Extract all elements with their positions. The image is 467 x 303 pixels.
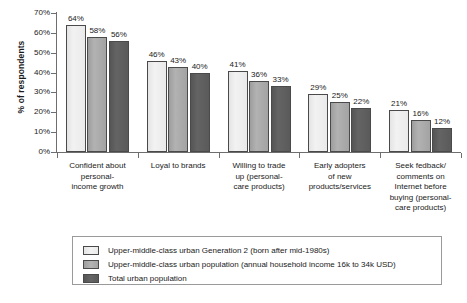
bar: [228, 71, 248, 152]
bar-value-label: 12%: [429, 118, 455, 126]
bar: [87, 37, 107, 152]
bar-value-label: 33%: [268, 76, 294, 84]
category-label-line: Confident about: [51, 161, 144, 172]
legend-swatch: [83, 260, 99, 269]
bar-value-label: 29%: [305, 84, 331, 92]
y-tick-label: 30%: [8, 88, 50, 96]
bar-value-label: 16%: [408, 110, 434, 118]
x-tick-mark: [461, 153, 462, 158]
category-label-line: comments on: [374, 172, 467, 183]
y-tick-label: 50%: [8, 49, 50, 57]
legend-label: Upper-middle-class urban population (ann…: [108, 260, 396, 269]
x-tick-mark: [57, 153, 58, 158]
bar-value-label: 22%: [348, 98, 374, 106]
bar-value-label: 41%: [225, 61, 251, 69]
bar-value-label: 40%: [187, 63, 213, 71]
legend-item: Upper-middle-class urban Generation 2 (b…: [83, 244, 329, 256]
plot-region: 64%58%56%46%43%40%41%36%33%29%25%22%21%1…: [57, 13, 461, 152]
bar: [330, 102, 350, 152]
legend-label: Upper-middle-class urban Generation 2 (b…: [108, 246, 329, 255]
category-label-line: care products): [374, 203, 467, 214]
x-tick-mark: [299, 153, 300, 158]
bar: [432, 128, 452, 152]
bar: [66, 25, 86, 152]
category-label-line: personal-: [51, 172, 144, 183]
category-label-line: Seek fedback/: [374, 161, 467, 172]
category-label-line: care products): [213, 182, 306, 193]
bar-value-label: 64%: [63, 15, 89, 23]
category-label-line: Internet before: [374, 182, 467, 193]
bar: [411, 120, 431, 152]
legend-swatch: [83, 274, 99, 283]
category-label: Willing to tradeup (personal-care produc…: [213, 161, 306, 193]
bar-value-label: 21%: [386, 100, 412, 108]
x-tick-mark: [380, 153, 381, 158]
category-label-line: income growth: [51, 182, 144, 193]
y-tick-label: 60%: [8, 29, 50, 37]
bar: [351, 108, 371, 152]
y-tick-label: 10%: [8, 128, 50, 136]
x-axis-line: [56, 152, 461, 153]
category-label: Seek fedback/comments onInternet beforeb…: [374, 161, 467, 214]
category-label: Confident aboutpersonal-income growth: [51, 161, 144, 193]
bar: [109, 41, 129, 152]
y-tick-label: 20%: [8, 108, 50, 116]
bar-value-label: 56%: [106, 31, 132, 39]
category-label-line: Loyal to brands: [132, 161, 225, 172]
bar: [249, 81, 269, 152]
category-label: Early adoptersof newproducts/services: [293, 161, 386, 193]
y-tick-label: 0%: [8, 148, 50, 156]
category-label-line: up (personal-: [213, 172, 306, 183]
chart-legend: Upper-middle-class urban Generation 2 (b…: [72, 236, 442, 285]
y-tick-label: 70%: [8, 9, 50, 17]
category-label-line: Early adopters: [293, 161, 386, 172]
category-label-line: buying (personal-: [374, 193, 467, 204]
x-tick-mark: [219, 153, 220, 158]
bar-chart: % of respondents 70%60%50%40%30%20%10%0%…: [0, 0, 467, 232]
bar: [168, 67, 188, 152]
legend-label: Total urban population: [108, 274, 187, 283]
bar: [389, 110, 409, 152]
category-label: Loyal to brands: [132, 161, 225, 172]
legend-item: Upper-middle-class urban population (ann…: [83, 258, 396, 270]
bar: [308, 94, 328, 152]
bar: [190, 73, 210, 152]
bar: [271, 86, 291, 152]
x-tick-mark: [138, 153, 139, 158]
legend-swatch: [83, 246, 99, 255]
legend-item: Total urban population: [83, 272, 187, 284]
y-tick-label: 40%: [8, 69, 50, 77]
bar: [147, 61, 167, 152]
category-label-line: of new: [293, 172, 386, 183]
category-label-line: products/services: [293, 182, 386, 193]
category-label-line: Willing to trade: [213, 161, 306, 172]
